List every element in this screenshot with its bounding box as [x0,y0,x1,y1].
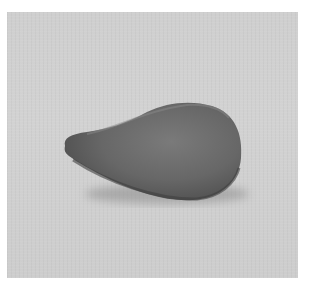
photograph [7,12,298,278]
teardrop-object [7,12,298,278]
